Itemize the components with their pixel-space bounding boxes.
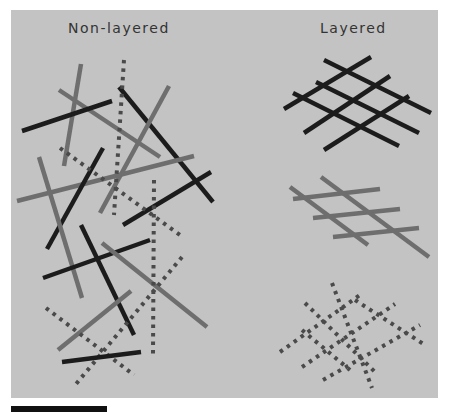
black-line <box>81 225 134 335</box>
dotted-line <box>114 60 124 215</box>
gray-line <box>58 291 131 350</box>
layered-dotted-lines <box>280 283 425 388</box>
black-line <box>119 87 213 202</box>
black-line <box>43 240 150 278</box>
dotted-line <box>302 304 395 367</box>
dotted-line <box>332 283 372 388</box>
scale-bar <box>11 406 107 412</box>
black-line <box>324 60 431 113</box>
non-layered-label: Non-layered <box>68 20 170 36</box>
dotted-line <box>153 180 154 355</box>
black-line <box>123 172 211 225</box>
dotted-line <box>302 330 350 370</box>
line-diagram <box>0 0 449 412</box>
layered-gray-lines <box>290 177 429 257</box>
layered-black-lines <box>284 57 431 150</box>
black-line <box>62 352 141 362</box>
dotted-line <box>305 303 375 372</box>
black-line <box>47 148 103 249</box>
non-layered-lines <box>17 60 213 384</box>
dotted-line <box>46 308 134 375</box>
layered-label: Layered <box>320 20 387 36</box>
